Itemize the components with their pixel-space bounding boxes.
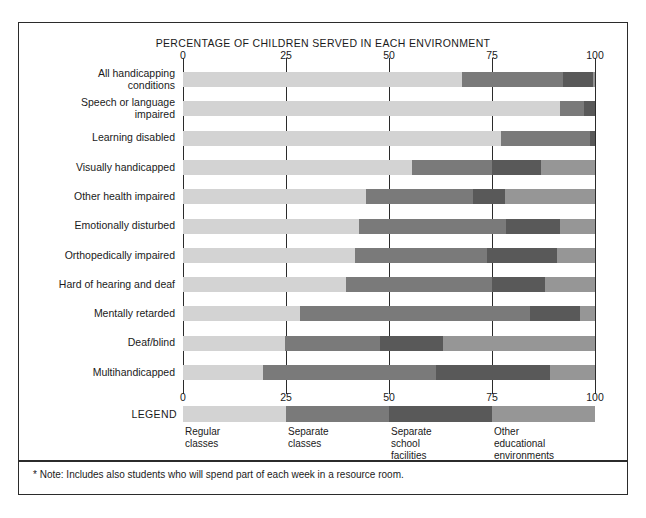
- bar-segment: [183, 336, 285, 351]
- bar-segment: [492, 160, 542, 175]
- bar-segment: [355, 248, 487, 263]
- x-axis-bottom-tick-label: 0: [180, 391, 186, 403]
- bar-row: Orthopedically impaired: [183, 248, 595, 263]
- bar-segment: [580, 306, 595, 321]
- bar-segment: [183, 101, 560, 116]
- bar-segment: [530, 306, 580, 321]
- bar-segment: [506, 219, 560, 234]
- legend-item-label: Regular classes: [185, 426, 285, 450]
- plot-area: 0255075100 All handicapping conditionsSp…: [183, 65, 595, 387]
- bar-segment: [550, 365, 595, 380]
- bar-segment: [501, 131, 590, 146]
- bar-row: Speech or language impaired: [183, 101, 595, 116]
- bar-segment: [183, 365, 263, 380]
- bar-segment: [183, 131, 501, 146]
- bar-segment: [183, 277, 346, 292]
- bar-segment: [183, 189, 366, 204]
- bar-row: Learning disabled: [183, 131, 595, 146]
- bar-segment: [563, 72, 593, 87]
- bar-row: Mentally retarded: [183, 306, 595, 321]
- bar-category-label: Mentally retarded: [0, 308, 175, 320]
- bar-row: All handicapping conditions: [183, 72, 595, 87]
- bar-segment: [560, 101, 585, 116]
- legend-swatch: [286, 406, 389, 422]
- bar-row: Visually handicapped: [183, 160, 595, 175]
- x-axis-bottom-tick-label: 75: [486, 391, 498, 403]
- footnote-text: * Note: Includes also students who will …: [33, 469, 404, 480]
- tick-mark: [389, 58, 390, 65]
- bar-segment: [590, 131, 595, 146]
- chart-title: PERCENTAGE OF CHILDREN SERVED IN EACH EN…: [19, 37, 627, 49]
- tick-mark: [183, 58, 184, 65]
- bar-category-label: Speech or language impaired: [0, 97, 175, 120]
- bar-segment: [380, 336, 443, 351]
- bar-category-label: Deaf/blind: [0, 337, 175, 349]
- bar-segment: [557, 248, 595, 263]
- legend-swatch: [183, 406, 286, 422]
- x-axis-top-ticks: [183, 58, 595, 65]
- tick-mark: [286, 58, 287, 65]
- bar-segment: [263, 365, 436, 380]
- bar-segment: [183, 72, 462, 87]
- legend: LEGEND Regular classesSeparate classesSe…: [183, 406, 595, 474]
- bar-segment: [545, 277, 595, 292]
- bar-segment: [443, 336, 595, 351]
- bar-segment: [366, 189, 473, 204]
- bar-row: Multihandicapped: [183, 365, 595, 380]
- legend-title: LEGEND: [131, 408, 177, 420]
- bar-segment: [359, 219, 506, 234]
- legend-labels: Regular classesSeparate classesSeparate …: [183, 422, 595, 474]
- legend-item-label: Separate school facilities: [391, 426, 491, 462]
- chart-figure: PERCENTAGE OF CHILDREN SERVED IN EACH EN…: [18, 22, 628, 495]
- bar-category-label: Multihandicapped: [0, 367, 175, 379]
- legend-swatch: [389, 406, 492, 422]
- bar-segment: [541, 160, 595, 175]
- legend-swatch-bar: [183, 406, 595, 422]
- bar-segment: [300, 306, 530, 321]
- bar-row: Emotionally disturbed: [183, 219, 595, 234]
- bar-segment: [183, 306, 300, 321]
- gridline: [595, 65, 596, 387]
- tick-mark: [595, 58, 596, 65]
- x-axis-bottom-tick-labels: 0255075100: [183, 391, 595, 405]
- bar-segment: [487, 248, 557, 263]
- tick-mark: [492, 58, 493, 65]
- bar-segment: [492, 277, 546, 292]
- x-axis-bottom-tick-label: 25: [280, 391, 292, 403]
- bar-category-label: Visually handicapped: [0, 162, 175, 174]
- x-axis-bottom-tick-label: 100: [586, 391, 604, 403]
- bar-segment: [436, 365, 550, 380]
- bar-segment: [593, 72, 595, 87]
- bar-row: Other health impaired: [183, 189, 595, 204]
- legend-item-label: Separate classes: [288, 426, 388, 450]
- bar-row: Deaf/blind: [183, 336, 595, 351]
- bar-segment: [346, 277, 492, 292]
- bar-segment: [462, 72, 563, 87]
- bar-segment: [183, 248, 355, 263]
- bar-category-label: Orthopedically impaired: [0, 250, 175, 262]
- bar-category-label: Other health impaired: [0, 191, 175, 203]
- bar-row: Hard of hearing and deaf: [183, 277, 595, 292]
- bar-category-label: Emotionally disturbed: [0, 220, 175, 232]
- bar-segment: [183, 219, 359, 234]
- bar-segment: [183, 160, 412, 175]
- bar-segment: [473, 189, 505, 204]
- bar-category-label: Hard of hearing and deaf: [0, 279, 175, 291]
- x-axis-bottom-tick-label: 50: [383, 391, 395, 403]
- footnote-divider: [19, 460, 627, 462]
- legend-swatch: [492, 406, 595, 422]
- legend-item-label: Other educational environments: [494, 426, 594, 462]
- bar-category-label: Learning disabled: [0, 132, 175, 144]
- bar-segment: [412, 160, 492, 175]
- bar-segment: [560, 219, 595, 234]
- bar-category-label: All handicapping conditions: [0, 68, 175, 91]
- stacked-bars: All handicapping conditionsSpeech or lan…: [183, 65, 595, 387]
- bar-segment: [285, 336, 380, 351]
- bar-segment: [505, 189, 595, 204]
- bar-segment: [584, 101, 595, 116]
